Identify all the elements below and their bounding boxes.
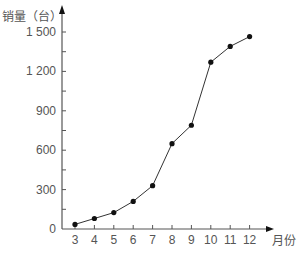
y-axis-ticks: 03006009001 2001 500 (26, 25, 66, 236)
data-point-marker (169, 141, 174, 146)
y-tick-label: 1 500 (26, 25, 56, 39)
data-point-markers (72, 34, 252, 227)
x-axis-arrow-icon (266, 226, 274, 232)
sales-line (75, 37, 250, 225)
y-tick-label: 1 200 (26, 64, 56, 78)
y-tick-label: 300 (36, 183, 56, 197)
data-point-marker (111, 210, 116, 215)
data-point-marker (131, 199, 136, 204)
x-tick-label: 9 (188, 233, 195, 247)
data-point-marker (247, 34, 252, 39)
data-point-marker (228, 44, 233, 49)
x-tick-label: 12 (243, 233, 257, 247)
x-tick-label: 7 (149, 233, 156, 247)
x-tick-label: 4 (91, 233, 98, 247)
x-axis-title: 月份 (272, 234, 296, 248)
data-point-marker (150, 183, 155, 188)
x-tick-label: 5 (110, 233, 117, 247)
x-axis-ticks: 3456789101112 (72, 225, 257, 247)
x-tick-label: 11 (224, 233, 237, 247)
x-tick-label: 10 (204, 233, 218, 247)
x-tick-label: 3 (72, 233, 79, 247)
data-point-marker (72, 222, 77, 227)
y-tick-label: 0 (49, 222, 56, 236)
line-chart: 03006009001 2001 500 3456789101112 销量（台）… (0, 0, 303, 260)
data-point-marker (92, 216, 97, 221)
x-tick-label: 6 (130, 233, 137, 247)
data-point-marker (189, 123, 194, 128)
y-tick-label: 900 (36, 104, 56, 118)
data-point-marker (208, 60, 213, 65)
axes (59, 5, 274, 232)
y-tick-label: 600 (36, 143, 56, 157)
x-tick-label: 8 (169, 233, 176, 247)
y-axis-title: 销量（台） (2, 9, 62, 24)
